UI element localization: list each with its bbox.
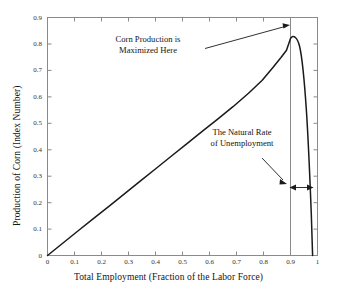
- max-production-arrow: [205, 23, 290, 48]
- x-tick-label: 0.1: [70, 259, 79, 266]
- y-tick-label: 0.1: [22, 226, 42, 233]
- y-axis-title: Production of Corn (Index Number): [12, 86, 22, 227]
- x-tick-label: 0.9: [286, 259, 295, 266]
- x-tick-label: 0.4: [151, 259, 160, 266]
- natural-rate-arrow: [262, 158, 287, 185]
- x-tick-label: 1: [316, 259, 320, 266]
- y-tick-label: 0.6: [22, 93, 42, 100]
- annotation-natural-rate-line1: The Natural Rate: [190, 127, 294, 138]
- y-tick-label: 0.3: [22, 173, 42, 180]
- y-tick-label: 0.2: [22, 199, 42, 206]
- annotation-natural-rate: The Natural Rate of Unemployment: [190, 127, 294, 149]
- corn-production-chart: 0.9 0.8 0.7 0.6 0.5 0.4 0.3 0.2 0.1 0 0 …: [0, 0, 337, 295]
- y-tick-label: 0.5: [22, 120, 42, 127]
- annotation-natural-rate-line2: of Unemployment: [190, 138, 294, 149]
- annotation-max-production-line1: Corn Production is: [88, 34, 208, 45]
- x-tick-label: 0: [46, 259, 50, 266]
- y-tick-label: 0.8: [22, 41, 42, 48]
- x-tick-label: 0.7: [232, 259, 241, 266]
- x-tick-label: 0.6: [205, 259, 214, 266]
- x-tick-label: 0.2: [97, 259, 106, 266]
- x-axis-title: Total Employment (Fraction of the Labor …: [0, 272, 337, 282]
- y-tick-label: 0.7: [22, 67, 42, 74]
- x-tick-label: 0.3: [124, 259, 133, 266]
- y-tick-label: 0.4: [22, 146, 42, 153]
- x-tick-label: 0.5: [178, 259, 187, 266]
- y-tick-label: 0.9: [22, 14, 42, 21]
- y-tick-label: 0: [22, 252, 42, 259]
- x-tick-label: 0.8: [259, 259, 268, 266]
- annotation-max-production-line2: Maximized Here: [88, 45, 208, 56]
- annotation-max-production: Corn Production is Maximized Here: [88, 34, 208, 56]
